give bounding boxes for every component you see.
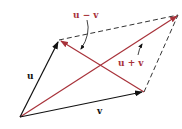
u-plus-v-leader-arrow xyxy=(138,44,142,55)
label-v: v xyxy=(96,106,103,116)
vector-u-plus-v xyxy=(20,16,177,117)
label-u-minus-v: u − v xyxy=(73,10,99,20)
vector-v xyxy=(20,92,142,117)
vector-u xyxy=(20,42,58,117)
label-u-plus-v: u + v xyxy=(118,58,144,68)
label-u: u xyxy=(27,71,34,81)
vector-parallelogram-diagram: u − v u + v u v xyxy=(0,0,182,129)
